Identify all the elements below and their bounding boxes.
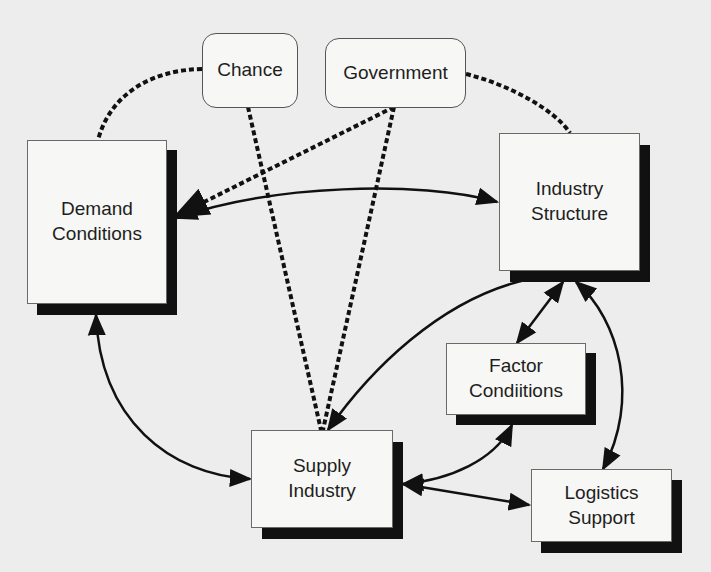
chance-label: Chance (217, 58, 283, 83)
edge-chance-supply (248, 107, 321, 430)
edge-industry-factor (517, 282, 563, 343)
diagram-canvas: Chance Government Demand Conditions Indu… (0, 0, 711, 572)
edge-government-demand (176, 107, 394, 216)
edge-demand-industry (177, 189, 497, 218)
logistics-support-label: Logistics Support (565, 481, 639, 530)
demand-conditions-box[interactable]: Demand Conditions (27, 140, 167, 304)
demand-conditions-label: Demand Conditions (52, 197, 142, 246)
factor-conditions-label: Factor Condiitions (469, 354, 563, 403)
edge-supply-factor (403, 425, 512, 484)
government-box[interactable]: Government (325, 38, 466, 108)
industry-structure-label: Industry Structure (531, 177, 608, 226)
supply-industry-label: Supply Industry (288, 454, 356, 503)
edge-government-supply (323, 107, 394, 430)
industry-structure-box[interactable]: Industry Structure (499, 133, 640, 271)
edge-chance-demand (98, 69, 202, 140)
logistics-support-box[interactable]: Logistics Support (531, 469, 672, 542)
edge-government-industry (466, 74, 570, 133)
factor-conditions-box[interactable]: Factor Condiitions (446, 343, 586, 415)
government-label: Government (343, 61, 448, 86)
edge-supply-logistics (403, 484, 529, 505)
edge-demand-supply (96, 315, 250, 479)
supply-industry-box[interactable]: Supply Industry (251, 430, 393, 528)
chance-box[interactable]: Chance (202, 33, 298, 108)
